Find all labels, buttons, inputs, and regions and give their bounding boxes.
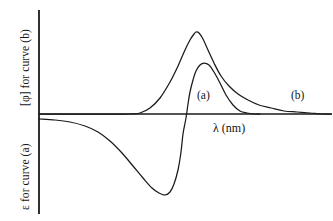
figure-container: [φ] for curve (b) ε for curve (a) λ (nm)… — [0, 0, 333, 221]
y-axis-label-bottom: ε for curve (a) — [20, 143, 32, 210]
plot-canvas — [0, 0, 333, 221]
x-axis-label: λ (nm) — [213, 122, 245, 134]
curve-b-annotation: (b) — [291, 90, 304, 102]
y-axis-label-top: [φ] for curve (b) — [20, 29, 32, 106]
curve-a-annotation: (a) — [197, 90, 210, 102]
